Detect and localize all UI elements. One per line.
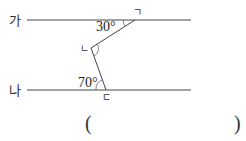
line-label-ga: 가: [9, 13, 21, 28]
point-label-digeut: ㄷ: [102, 92, 111, 103]
angle-label-70: 70°: [78, 75, 98, 90]
point-label-nieun: ㄴ: [80, 43, 89, 54]
answer-paren-close: ): [234, 112, 241, 135]
angle-label-30: 30°: [96, 19, 116, 34]
answer-paren-open: (: [85, 112, 92, 135]
geometry-diagram: 가 나 30° 70° ㄱ ㄴ ㄷ ( ): [0, 0, 246, 141]
line-label-na: 나: [9, 83, 21, 98]
point-label-giyeok: ㄱ: [133, 7, 142, 18]
angle-arc-top: [123, 20, 125, 26]
